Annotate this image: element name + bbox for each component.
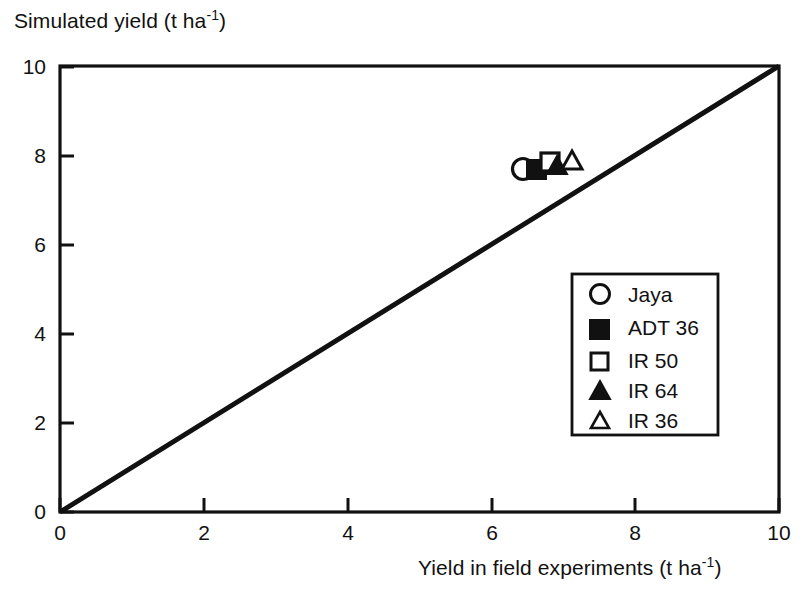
x-tick-label-6: 6 [470,521,514,545]
y-tick-label-10: 10 [2,55,46,79]
legend-marker-filled-square [590,320,609,339]
x-tick-label-4: 4 [326,521,370,545]
x-tick-label-8: 8 [613,521,657,545]
legend-marker-open-square [591,353,608,370]
y-tick-label-8: 8 [2,144,46,168]
y-tick-label-4: 4 [2,322,46,346]
scatter-chart-figure: Simulated yield (t ha-1) Yield in field … [0,0,805,600]
legend-label-ir-64: IR 64 [628,379,678,403]
plot-area [0,0,805,600]
legend-marker-open-circle [591,285,610,304]
y-tick-label-6: 6 [2,233,46,257]
y-tick-label-2: 2 [2,411,46,435]
x-tick-label-0: 0 [38,521,82,545]
x-tick-label-10: 10 [757,521,801,545]
legend-label-ir-50: IR 50 [628,349,678,373]
x-tick-label-2: 2 [182,521,226,545]
legend-label-ir-36: IR 36 [628,409,678,433]
legend-label-adt-36: ADT 36 [628,316,699,340]
legend-label-jaya: Jaya [628,283,672,307]
